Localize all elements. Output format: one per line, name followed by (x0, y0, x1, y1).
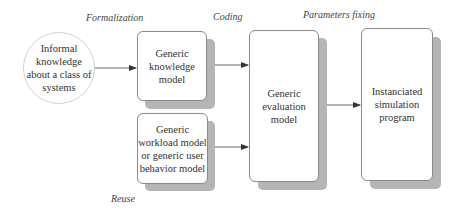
diagram-canvas: Formalization Coding Parameters fixing R… (0, 0, 464, 211)
edge-layer (0, 0, 464, 211)
